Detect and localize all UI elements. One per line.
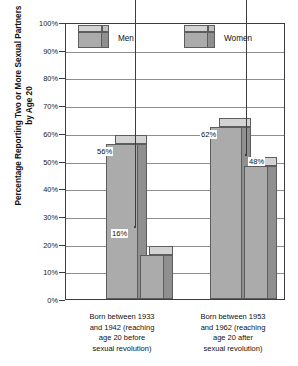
category-right-line-4: sexual revolution) bbox=[172, 344, 294, 355]
gridline bbox=[66, 135, 284, 136]
y-tick-label: 10% bbox=[28, 268, 58, 277]
legend-cube-icon bbox=[78, 32, 102, 48]
leader-line-16 bbox=[135, 0, 136, 226]
y-tick-label: 50% bbox=[28, 158, 58, 167]
bar-chart: Percentage Reporting Two or More Sexual … bbox=[0, 0, 298, 366]
value-label-16: 16% bbox=[111, 229, 128, 238]
category-right-line-1: Born between 1953 bbox=[172, 312, 294, 323]
bar-side-face bbox=[164, 255, 173, 299]
value-label-62: 62% bbox=[200, 130, 217, 139]
bar-top-face bbox=[149, 246, 173, 255]
y-tick-label: 100% bbox=[28, 19, 58, 28]
y-tick-label: 30% bbox=[28, 213, 58, 222]
y-tick-label: 80% bbox=[28, 74, 58, 83]
category-right-line-3: age 20 after bbox=[172, 333, 294, 344]
value-label-56: 56% bbox=[96, 147, 113, 156]
category-right-line-2: and 1962 (reaching bbox=[172, 323, 294, 334]
y-tick-label: 60% bbox=[28, 130, 58, 139]
gridline bbox=[66, 52, 284, 53]
bar-side-face bbox=[268, 166, 277, 299]
category-label-right: Born between 1953 and 1962 (reaching age… bbox=[172, 312, 294, 354]
bar-front-face bbox=[210, 127, 242, 299]
bar-front-face bbox=[106, 144, 138, 299]
y-tick-label: 20% bbox=[28, 241, 58, 250]
bar-women-group-2 bbox=[244, 166, 268, 299]
value-label-48: 48% bbox=[248, 157, 265, 166]
bar-men-group-2 bbox=[210, 127, 242, 299]
category-label-left: Born between 1933 and 1942 (reaching age… bbox=[61, 312, 183, 354]
bar-top-face bbox=[115, 135, 147, 144]
legend-label-women: Women bbox=[224, 34, 252, 43]
leader-line-48-endpoint-dot bbox=[245, 154, 247, 156]
gridline bbox=[66, 79, 284, 80]
y-tick-label: 0% bbox=[28, 296, 58, 305]
category-left-line-3: age 20 before bbox=[61, 333, 183, 344]
category-left-line-1: Born between 1933 bbox=[61, 312, 183, 323]
legend-label-men: Men bbox=[118, 34, 134, 43]
bar-front-face bbox=[244, 166, 268, 299]
bar-front-face bbox=[140, 255, 164, 299]
category-left-line-4: sexual revolution) bbox=[61, 344, 183, 355]
leader-line-16-endpoint-dot bbox=[134, 226, 136, 228]
bar-men-group-1 bbox=[106, 144, 138, 299]
category-left-line-2: and 1942 (reaching bbox=[61, 323, 183, 334]
leader-line-48 bbox=[246, 0, 247, 154]
y-tick-label: 40% bbox=[28, 185, 58, 194]
bar-women-group-1 bbox=[140, 255, 164, 299]
y-tick-mark bbox=[59, 300, 65, 301]
gridline bbox=[66, 107, 284, 108]
y-tick-label: 70% bbox=[28, 102, 58, 111]
legend-cube-icon bbox=[184, 32, 208, 48]
y-tick-label: 90% bbox=[28, 47, 58, 56]
